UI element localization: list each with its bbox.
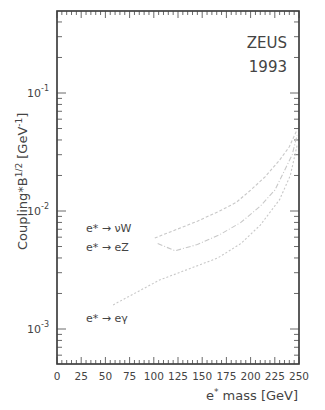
x-tick-label: 50 bbox=[99, 370, 112, 382]
y-tick-label: 10-1 bbox=[27, 84, 49, 100]
limit-curves bbox=[113, 130, 297, 305]
legend-egamma: e* → eγ bbox=[86, 312, 128, 325]
legend-eZ: e* → eZ bbox=[86, 241, 129, 254]
x-tick-label: 125 bbox=[168, 370, 188, 382]
x-tick-label: 175 bbox=[216, 370, 236, 382]
x-tick-label: 200 bbox=[241, 370, 261, 382]
y-tick-label: 10-3 bbox=[27, 320, 49, 336]
x-tick-label: 0 bbox=[54, 370, 61, 382]
y-axis-label: Coupling*B1/2 [GeV-1] bbox=[14, 113, 30, 250]
x-tick-label: 100 bbox=[144, 370, 164, 382]
y-tick-label: 10-2 bbox=[27, 202, 49, 218]
exclusion-limit-chart: 0255075100125150175200225250 10-310-210-… bbox=[0, 0, 325, 410]
curve-0 bbox=[155, 130, 297, 238]
legend-nuW: e* → νW bbox=[86, 222, 132, 235]
x-tick-label: 150 bbox=[192, 370, 212, 382]
x-tick-label: 225 bbox=[265, 370, 285, 382]
year-label: 1993 bbox=[249, 58, 287, 76]
x-axis-label: e* mass [GeV] bbox=[206, 387, 298, 403]
experiment-label: ZEUS bbox=[247, 34, 287, 52]
curve-2 bbox=[113, 145, 297, 305]
curve-1 bbox=[158, 135, 297, 251]
x-tick-label: 75 bbox=[123, 370, 136, 382]
x-tick-label: 250 bbox=[289, 370, 309, 382]
x-tick-label: 25 bbox=[75, 370, 88, 382]
